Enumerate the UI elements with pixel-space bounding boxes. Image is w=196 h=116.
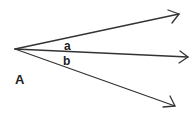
point-label-A: A <box>15 72 25 87</box>
lower-ray <box>15 49 175 106</box>
upper-ray <box>15 14 179 49</box>
angle-label-b: b <box>63 54 70 68</box>
angle-diagram: a b A <box>0 0 196 116</box>
middle-ray <box>15 49 188 57</box>
angle-label-a: a <box>64 39 71 53</box>
